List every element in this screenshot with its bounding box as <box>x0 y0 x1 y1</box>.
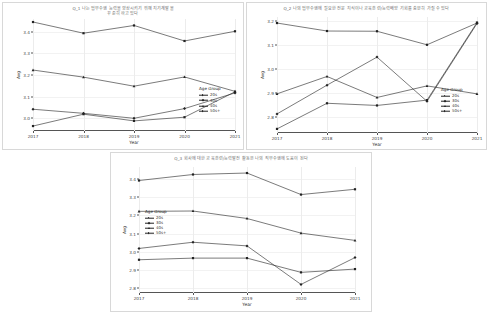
x-axis-tick-mark <box>355 293 356 295</box>
y-axis-tick-label: 3.3 <box>23 51 30 56</box>
series-20s <box>138 257 356 273</box>
legend-marker-icon <box>441 109 450 113</box>
x-axis-label: Year <box>129 140 138 145</box>
chart-1-title: Q_1 나는 업무수행 능력을 향상시키기 위해 지기계발을 꾸준히 하고 있다 <box>3 6 243 16</box>
legend: Age Group20s30s40s50s+ <box>441 87 463 114</box>
chart-panel-3: Q_3 회사에 대한 교육훈련/능력발전 활동은 나의 직무수행에 도움이 된다… <box>110 152 372 312</box>
legend-item-50splus[interactable]: 50s+ <box>145 231 167 236</box>
gridline-vertical <box>355 167 356 293</box>
y-axis-tick-label: 3.3 <box>129 195 136 200</box>
y-axis-tick-label: 3.1 <box>267 42 274 47</box>
x-axis-tick-label: 2019 <box>372 136 383 141</box>
legend-marker-icon <box>145 231 154 235</box>
x-axis-tick-label: 2017 <box>28 134 39 139</box>
legend-item-50splus[interactable]: 50s+ <box>199 108 221 113</box>
gridline-vertical <box>477 17 478 133</box>
y-axis-tick-label: 2.8 <box>267 115 274 120</box>
x-axis-tick-label: 2017 <box>134 296 145 301</box>
legend-title: Age Group <box>199 86 221 91</box>
x-axis-tick-label: 2021 <box>230 134 241 139</box>
x-axis-tick-mark <box>327 133 328 135</box>
gridline-vertical <box>235 19 236 131</box>
x-axis-tick-mark <box>139 293 140 295</box>
y-axis-tick-label: 2.9 <box>129 268 136 273</box>
legend-marker-icon <box>199 109 208 113</box>
x-axis-tick-mark <box>377 133 378 135</box>
legend: Age Group20s30s40s50s+ <box>199 86 221 113</box>
series-50s+ <box>276 22 478 46</box>
chart-2-title: Q_2 나의 업무수행에 필요한 전문 지식이나 교육훈련/능력배양 기회를 충… <box>247 6 486 11</box>
series-30s <box>138 241 357 286</box>
y-axis-tick-label: 3.2 <box>23 73 30 78</box>
y-axis-tick-label: 3.4 <box>129 176 136 181</box>
chart-panel-1: Q_1 나는 업무수행 능력을 향상시키기 위해 지기계발을 꾸준히 하고 있다… <box>2 2 244 150</box>
y-axis-tick-label: 3.1 <box>23 94 30 99</box>
series-40s <box>138 210 357 242</box>
y-axis-tick-label: 3.0 <box>267 66 274 71</box>
legend-marker-icon <box>145 216 154 220</box>
x-axis-tick-mark <box>427 133 428 135</box>
series-layer <box>33 19 235 131</box>
legend-item-label: 50s+ <box>210 108 220 113</box>
x-axis-tick-label: 2018 <box>188 296 199 301</box>
x-axis-tick-label: 2019 <box>129 134 140 139</box>
y-axis-tick-label: 2.8 <box>129 286 136 291</box>
x-axis-tick-label: 2019 <box>242 296 253 301</box>
series-layer <box>139 167 355 293</box>
y-axis-tick-label: 3.0 <box>129 249 136 254</box>
x-axis-label: Year <box>372 142 381 147</box>
x-axis-tick-label: 2020 <box>296 296 307 301</box>
y-axis-tick-label: 3.1 <box>129 231 136 236</box>
x-axis-tick-label: 2020 <box>179 134 190 139</box>
legend-marker-icon <box>441 104 450 108</box>
x-axis-tick-mark <box>247 293 248 295</box>
legend-title: Age Group <box>441 87 463 92</box>
chart-2-plot: 2.82.93.03.13.220172018201920202021AvgYe… <box>277 17 477 133</box>
legend-marker-icon <box>441 94 450 98</box>
legend-marker-icon <box>199 104 208 108</box>
y-axis-tick-label: 3.4 <box>23 29 30 34</box>
legend: Age Group20s30s40s50s+ <box>145 209 167 236</box>
x-axis-tick-mark <box>477 133 478 135</box>
x-axis-tick-mark <box>301 293 302 295</box>
x-axis-tick-mark <box>134 131 135 133</box>
x-axis-tick-mark <box>277 133 278 135</box>
legend-marker-icon <box>145 226 154 230</box>
series-layer <box>277 17 477 133</box>
legend-marker-icon <box>441 99 450 103</box>
x-axis-tick-mark <box>185 131 186 133</box>
x-axis-tick-label: 2018 <box>78 134 89 139</box>
legend-marker-icon <box>199 93 208 97</box>
legend-item-label: 50s+ <box>452 108 462 113</box>
y-axis-label: Avg <box>122 226 127 234</box>
y-axis-label: Avg <box>16 71 21 79</box>
legend-marker-icon <box>199 98 208 102</box>
legend-item-50splus[interactable]: 50s+ <box>441 109 463 114</box>
x-axis-tick-label: 2017 <box>272 136 283 141</box>
y-axis-tick-label: 2.9 <box>267 91 274 96</box>
x-axis-tick-mark <box>33 131 34 133</box>
legend-item-label: 50s+ <box>156 230 166 235</box>
x-axis-tick-label: 2020 <box>422 136 433 141</box>
y-axis-tick-label: 3.2 <box>267 18 274 23</box>
x-axis-tick-label: 2018 <box>322 136 333 141</box>
x-axis-tick-mark <box>193 293 194 295</box>
chart-1-plot: 3.03.13.23.33.420172018201920202021AvgYe… <box>33 19 235 131</box>
legend-title: Age Group <box>145 209 167 214</box>
y-axis-label: Avg <box>260 71 265 79</box>
legend-marker-icon <box>145 221 154 225</box>
y-axis-tick-label: 3.2 <box>129 213 136 218</box>
x-axis-tick-mark <box>235 131 236 133</box>
series-50s+ <box>32 21 236 42</box>
chart-3-title: Q_3 회사에 대한 교육훈련/능력발전 활동은 나의 직무수행에 도움이 된다 <box>111 156 371 161</box>
x-axis-tick-mark <box>84 131 85 133</box>
chart-panel-2: Q_2 나의 업무수행에 필요한 전문 지식이나 교육훈련/능력배양 기회를 충… <box>246 2 487 150</box>
chart-3-plot: 2.82.93.03.13.23.33.42017201820192020202… <box>139 167 355 293</box>
x-axis-label: Year <box>242 302 251 307</box>
x-axis-tick-label: 2021 <box>350 296 361 301</box>
y-axis-tick-label: 3.0 <box>23 116 30 121</box>
series-50s+ <box>138 172 356 196</box>
x-axis-tick-label: 2021 <box>472 136 483 141</box>
